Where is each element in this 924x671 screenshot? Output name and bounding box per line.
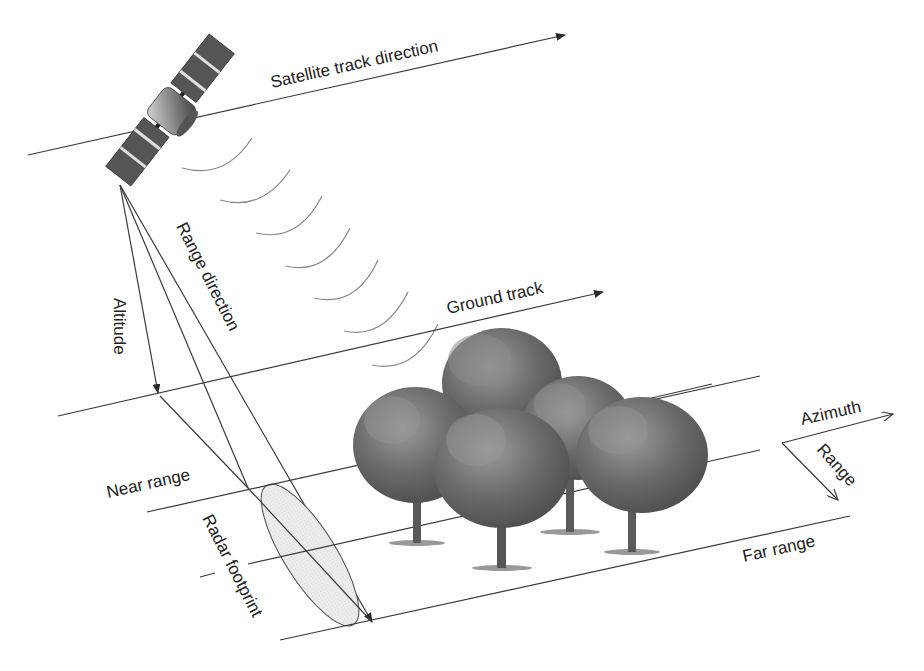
hidden-guide (170, 185, 372, 622)
trees-group (353, 328, 708, 571)
altitude-label: Altitude (110, 298, 129, 355)
satellite-track-label: Satellite track direction (269, 36, 440, 92)
sar-geometry-diagram: Satellite track direction Altitude (0, 0, 924, 671)
satellite-track-arrow (28, 35, 565, 155)
satellite-icon (104, 33, 243, 193)
far-range-label: Far range (741, 531, 817, 566)
near-range-label: Near range (105, 465, 192, 502)
radar-footprint-label: Radar footprint (198, 511, 266, 620)
ground-track-label: Ground track (445, 278, 546, 318)
radar-wave-icon (182, 138, 438, 366)
tree-icon (434, 408, 570, 571)
range-direction-label: Range direction (172, 219, 243, 334)
mid-line-stub (200, 573, 215, 577)
altitude-arrow (120, 185, 158, 393)
footprint-diagonal-line (248, 488, 372, 622)
